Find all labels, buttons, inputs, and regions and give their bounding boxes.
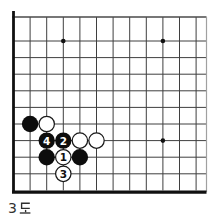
stone-black <box>72 149 88 165</box>
stone-move-number: 2 <box>60 135 67 147</box>
go-diagram-page: 4213 3 3도 <box>0 0 211 217</box>
stone-white <box>89 133 104 148</box>
stone-white <box>39 116 54 131</box>
stone-move-number: 3 <box>60 168 67 180</box>
stone-white <box>72 133 87 148</box>
caption-digit: 3 <box>8 202 17 215</box>
diagram-caption: 3 3도 <box>8 199 31 215</box>
stone-black <box>22 116 38 132</box>
star-point <box>61 39 66 44</box>
stone-move-number: 4 <box>43 135 50 147</box>
star-point <box>161 138 166 143</box>
hangul-do-glyph <box>19 202 31 215</box>
star-point <box>161 39 166 44</box>
stone-move-number: 1 <box>60 151 67 163</box>
go-board: 4213 <box>0 0 211 217</box>
stone-black <box>39 149 55 165</box>
